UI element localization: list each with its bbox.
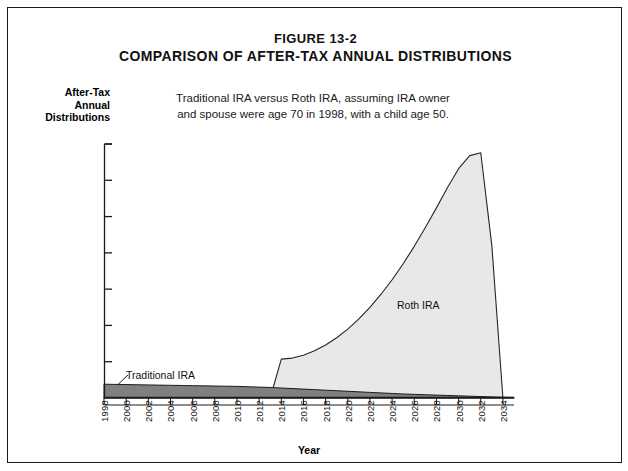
y-axis-title-line-3: Distributions [18, 111, 110, 124]
x-tick-label: 2006 [188, 400, 199, 422]
plot-area [104, 144, 514, 398]
x-tick-label: 2034 [498, 400, 509, 422]
series-label-traditional-ira: Traditional IRA [126, 369, 195, 381]
series-label-roth-ira: Roth IRA [397, 299, 440, 311]
x-tick-label: 2002 [143, 400, 154, 422]
x-tick-label: 2010 [232, 400, 243, 422]
y-axis-title: After-Tax Annual Distributions [18, 86, 110, 124]
x-tick-label: 2028 [431, 400, 442, 422]
x-axis-tick-labels: 1998200020022004200620082010201220142016… [104, 400, 514, 442]
x-tick-label: 2026 [409, 400, 420, 422]
figure-heading: FIGURE 13-2 COMPARISON OF AFTER-TAX ANNU… [8, 30, 623, 66]
subtitle-line-1: Traditional IRA versus Roth IRA, assumin… [98, 90, 528, 106]
x-tick-label: 2032 [476, 400, 487, 422]
x-tick-label: 2000 [121, 400, 132, 422]
y-axis-title-line-2: Annual [18, 99, 110, 112]
x-tick-label: 1998 [99, 400, 110, 422]
x-tick-label: 2024 [387, 400, 398, 422]
x-tick-label: 2020 [343, 400, 354, 422]
x-tick-label: 2030 [454, 400, 465, 422]
x-tick-label: 2008 [210, 400, 221, 422]
y-axis-title-line-1: After-Tax [18, 86, 110, 99]
subtitle-line-2: and spouse were age 70 in 1998, with a c… [98, 106, 528, 122]
chart-canvas [104, 144, 514, 398]
x-tick-label: 2016 [298, 400, 309, 422]
figure-frame: FIGURE 13-2 COMPARISON OF AFTER-TAX ANNU… [7, 7, 622, 463]
x-tick-label: 2004 [165, 400, 176, 422]
roth-ira-area [104, 153, 514, 398]
x-axis-title: Year [104, 444, 514, 456]
x-tick-label: 2022 [365, 400, 376, 422]
x-tick-label: 2018 [321, 400, 332, 422]
figure-number: FIGURE 13-2 [8, 30, 623, 47]
x-tick-label: 2012 [254, 400, 265, 422]
figure-subtitle: Traditional IRA versus Roth IRA, assumin… [98, 90, 528, 122]
figure-title: COMPARISON OF AFTER-TAX ANNUAL DISTRIBUT… [8, 47, 623, 66]
x-tick-label: 2014 [276, 400, 287, 422]
